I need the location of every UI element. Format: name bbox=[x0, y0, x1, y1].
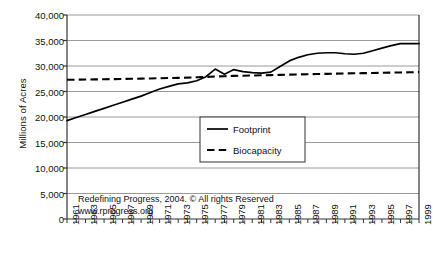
x-tick-label: 1961 bbox=[71, 204, 81, 225]
x-tick-label: 1981 bbox=[256, 204, 266, 225]
series-line-footprint bbox=[67, 44, 419, 121]
x-tick-label: 1969 bbox=[145, 204, 155, 225]
x-tick-label: 1989 bbox=[330, 204, 340, 225]
x-tick-label: 1977 bbox=[219, 204, 229, 225]
x-tick-label: 1979 bbox=[237, 204, 247, 225]
x-tick-label: 1991 bbox=[348, 204, 358, 225]
x-tick-label: 1985 bbox=[293, 204, 303, 225]
x-tick-label: 1973 bbox=[182, 204, 192, 225]
x-tick-label: 1965 bbox=[108, 204, 118, 225]
x-tick-label: 1983 bbox=[274, 204, 284, 225]
x-tick-label: 1987 bbox=[311, 204, 321, 225]
x-tick-label: 1967 bbox=[126, 204, 136, 225]
gridlines bbox=[67, 15, 419, 194]
x-tick-label: 1997 bbox=[404, 204, 414, 225]
series-line-biocapacity bbox=[67, 72, 419, 80]
x-tick-label: 1995 bbox=[386, 204, 396, 225]
legend-label-biocapacity: Biocapacity bbox=[233, 146, 282, 156]
x-tick-label: 1963 bbox=[89, 204, 99, 225]
x-tick-label: 1975 bbox=[200, 204, 210, 225]
x-tick-label: 1971 bbox=[163, 204, 173, 225]
legend-label-footprint: Footprint bbox=[233, 125, 271, 135]
x-tick-label: 1993 bbox=[367, 204, 377, 225]
x-tick-label: 1999 bbox=[423, 204, 433, 225]
